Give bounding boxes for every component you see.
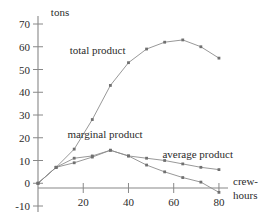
series-annotation: marginal product <box>67 128 142 140</box>
data-point-marker <box>91 155 94 158</box>
data-point-marker <box>109 149 112 152</box>
data-point-marker <box>218 57 221 60</box>
x-axis-unit-label-line2: hours <box>233 189 257 201</box>
x-axis-unit-label-line1: crew- <box>233 175 258 187</box>
data-point-marker <box>181 39 184 42</box>
data-point-marker <box>181 163 184 166</box>
series-annotation: total product <box>70 44 126 56</box>
data-point-marker <box>91 118 94 121</box>
series-annotation: average product <box>162 148 233 160</box>
y-tick-label: 70 <box>19 18 31 30</box>
data-point-marker <box>199 181 202 184</box>
y-axis-unit-label: tons <box>51 6 69 18</box>
data-point-marker <box>127 155 130 158</box>
data-point-marker <box>199 166 202 169</box>
data-point-marker <box>218 191 221 194</box>
x-tick-label: 60 <box>168 196 180 208</box>
data-point-marker <box>109 84 112 87</box>
y-tick-label: 40 <box>19 86 31 98</box>
y-tick-label: 10 <box>19 155 31 167</box>
chart-container: -10010203040506070 20406080 tons crew- h… <box>0 0 268 224</box>
y-tick-label: 0 <box>25 177 31 189</box>
data-point-marker <box>145 164 148 167</box>
data-point-marker <box>199 45 202 48</box>
data-point-marker <box>163 170 166 173</box>
series-annotations: total productmarginal productaverage pro… <box>67 44 233 161</box>
y-tick-label: 20 <box>19 132 31 144</box>
y-tick-label: 30 <box>19 109 31 121</box>
x-tick-label: 40 <box>123 196 135 208</box>
y-tick-label: 60 <box>19 41 31 53</box>
y-tick-label: 50 <box>19 64 31 76</box>
data-point-marker <box>55 166 58 169</box>
production-function-line-chart: -10010203040506070 20406080 tons crew- h… <box>0 0 268 224</box>
data-point-marker <box>73 161 76 164</box>
series-markers <box>37 39 221 194</box>
data-point-marker <box>127 61 130 64</box>
y-axis-tick-labels: -10010203040506070 <box>15 18 30 212</box>
data-point-marker <box>145 48 148 51</box>
y-tick-label: -10 <box>15 200 30 212</box>
data-point-marker <box>145 157 148 160</box>
data-point-marker <box>181 176 184 179</box>
data-point-marker <box>163 41 166 44</box>
data-point-marker <box>73 148 76 151</box>
data-point-marker <box>218 168 221 171</box>
x-axis-tick-labels: 20406080 <box>78 196 225 208</box>
x-tick-label: 80 <box>213 196 225 208</box>
data-point-marker <box>37 182 40 185</box>
x-tick-label: 20 <box>78 196 90 208</box>
data-point-marker <box>73 157 76 160</box>
